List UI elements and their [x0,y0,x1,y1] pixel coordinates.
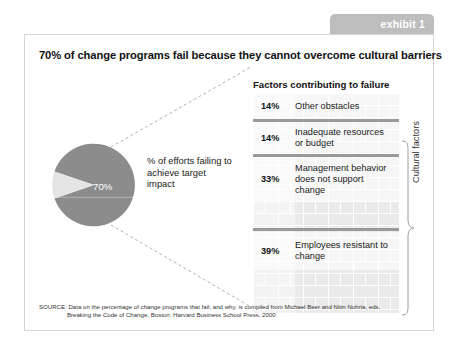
factor-row: 14% Inadequate resources or budget [253,122,399,154]
source-line-2: Breaking the Code of Change, Boston: Har… [39,311,423,319]
factor-label: Employees resistant to change [295,240,399,262]
factor-label: Management behavior does not support cha… [295,163,399,196]
source-note: SOURCE: Data on the percentage of change… [39,303,423,319]
exhibit-stage: exhibit 1 70% of change programs fail be… [0,0,458,354]
exhibit-tab: exhibit 1 [330,14,434,34]
cultural-factors-label: Cultural factors [411,121,421,183]
exhibit-tab-label: exhibit 1 [381,18,425,30]
factors-heading: Factors contributing to failure [253,79,389,90]
factor-row: 33% Management behavior does not support… [253,157,399,201]
connector-line-top [111,67,251,147]
page-title: 70% of change programs fail because they… [39,49,442,61]
factor-percent: 14% [253,101,295,111]
exhibit-card: 70% of change programs fail because they… [24,34,434,331]
factor-label: Other obstacles [295,101,365,112]
factor-percent: 33% [253,174,295,184]
row-divider-3 [253,228,399,231]
pie-svg: 70% [50,141,138,229]
factor-row: 39% Employees resistant to change [253,232,399,270]
factor-label: Inadequate resources or budget [295,127,399,149]
factor-percent: 14% [253,133,295,143]
source-line-1: SOURCE: Data on the percentage of change… [39,303,380,310]
factor-row: 14% Other obstacles [253,93,399,119]
connector-line-bottom [111,225,251,307]
pie-legend-text: % of efforts failing to achieve target i… [147,155,233,190]
pie-chart: 70% [50,141,138,229]
factors-panel: 14% Other obstacles 14% Inadequate resou… [253,93,399,313]
pie-center-label: 70% [93,181,113,192]
factor-percent: 39% [253,246,295,256]
